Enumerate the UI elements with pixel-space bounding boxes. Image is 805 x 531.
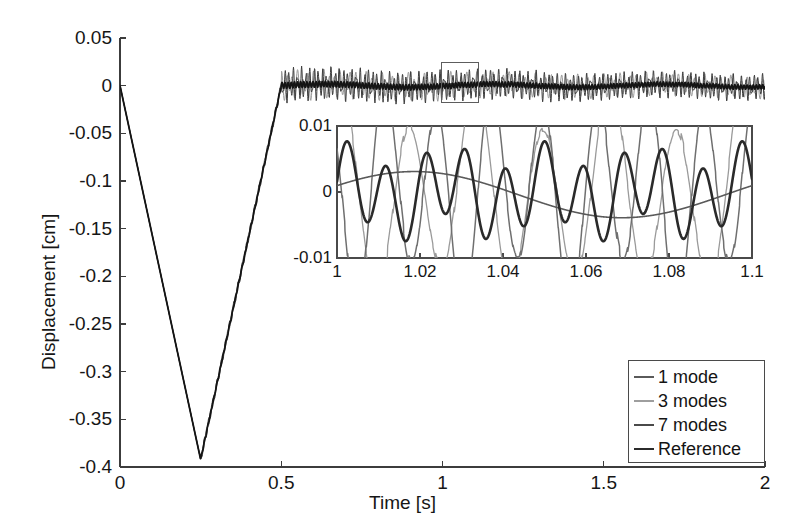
y-tick-5: -0.2 [20,266,112,285]
legend-item-7-modes: 7 modes [629,413,764,437]
legend-label-7-modes: 7 modes [658,416,727,434]
zoom-region-rectangle [441,62,479,103]
inset-y-tick-1: 0 [262,183,332,200]
legend-item-reference: Reference [629,437,764,461]
legend-swatch-reference [634,448,654,450]
legend-item-1-mode: 1 mode [629,365,764,389]
legend-label-3-modes: 3 modes [658,392,727,410]
y-tick-2: -0.05 [20,123,112,142]
y-tick-7: -0.3 [20,362,112,381]
y-tick-6: -0.25 [20,314,112,333]
y-tick-3: -0.1 [20,171,112,190]
x-tick-3: 1.5 [574,473,634,492]
x-tick-0: 0 [90,473,150,492]
y-tick-8: -0.35 [20,409,112,428]
y-tick-0: 0.05 [20,28,112,47]
x-tick-1: 0.5 [251,473,311,492]
y-tick-1: 0 [20,76,112,95]
inset-x-tick-5: 1.1 [717,263,787,280]
y-tick-4: -0.15 [20,219,112,238]
inset-y-tick-0: 0.01 [262,117,332,134]
inset-x-tick-3: 1.06 [551,263,621,280]
inset-x-tick-0: 1 [302,263,372,280]
legend-label-1-mode: 1 mode [658,368,718,386]
legend-swatch-3-modes [634,400,654,402]
inset-x-tick-4: 1.08 [634,263,704,280]
inset-x-tick-1: 1.02 [385,263,455,280]
legend-swatch-1-mode [634,376,654,378]
legend: 1 mode 3 modes 7 modes Reference [628,360,765,463]
figure-canvas: 0.050-0.05-0.1-0.15-0.2-0.25-0.3-0.35-0.… [0,0,805,531]
inset-x-tick-2: 1.04 [468,263,538,280]
legend-item-3-modes: 3 modes [629,389,764,413]
x-tick-2: 1 [413,473,473,492]
x-tick-4: 2 [735,473,795,492]
x-axis-title: Time [s] [0,492,805,514]
y-axis-title: Displacement [cm] [38,214,60,370]
legend-label-reference: Reference [658,440,741,458]
legend-swatch-7-modes [634,424,654,426]
